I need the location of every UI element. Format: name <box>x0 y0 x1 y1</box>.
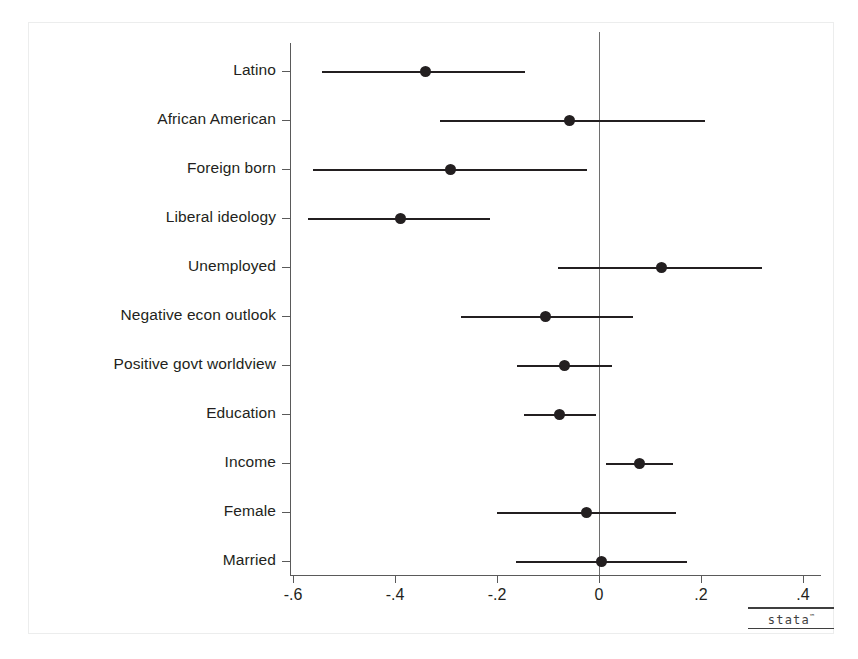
x-axis-tick-label: -.4 <box>386 586 405 604</box>
y-axis-label: Positive govt worldview <box>113 355 276 373</box>
y-axis-label: Liberal ideology <box>166 208 276 226</box>
y-axis-tick <box>282 267 290 268</box>
coefficient-plot-page: LatinoAfrican AmericanForeign bornLibera… <box>0 0 858 659</box>
y-axis-tick <box>282 169 290 170</box>
y-axis-tick <box>282 120 290 121</box>
x-axis-tick <box>803 575 804 583</box>
point-estimate-marker <box>656 262 667 273</box>
y-axis-tick <box>282 316 290 317</box>
x-axis-tick-label: -.2 <box>488 586 507 604</box>
x-axis-tick <box>395 575 396 583</box>
point-estimate-marker <box>554 409 565 420</box>
y-axis-label: Latino <box>233 61 276 79</box>
point-estimate-marker <box>445 164 456 175</box>
x-axis-tick <box>701 575 702 583</box>
zero-reference-line <box>599 32 600 576</box>
y-axis-tick <box>282 365 290 366</box>
y-axis-label: Income <box>225 453 276 471</box>
trademark-symbol: ™ <box>810 613 814 621</box>
stata-wordmark: stata™ <box>748 609 834 628</box>
x-axis-tick <box>599 575 600 583</box>
y-axis-label: Foreign born <box>187 159 276 177</box>
y-axis-tick <box>282 512 290 513</box>
y-axis-label: Education <box>206 404 276 422</box>
x-axis-tick-label: .2 <box>694 586 707 604</box>
y-axis-label: Married <box>223 551 276 569</box>
x-axis-tick <box>497 575 498 583</box>
x-axis-line <box>290 575 821 576</box>
y-axis-tick <box>282 463 290 464</box>
point-estimate-marker <box>420 66 431 77</box>
x-axis-tick-label: -.6 <box>284 586 303 604</box>
y-axis-line <box>290 43 291 576</box>
x-axis-tick-label: 0 <box>595 586 604 604</box>
stata-logo: stata™ <box>748 607 834 629</box>
point-estimate-marker <box>581 507 592 518</box>
x-axis-tick <box>293 575 294 583</box>
x-axis-tick-label: .4 <box>796 586 809 604</box>
y-axis-tick <box>282 561 290 562</box>
y-axis-label: Female <box>224 502 276 520</box>
y-axis-tick <box>282 218 290 219</box>
y-axis-labels: LatinoAfrican AmericanForeign bornLibera… <box>0 0 276 659</box>
point-estimate-marker <box>596 556 607 567</box>
stata-wordmark-text: stata <box>768 613 810 627</box>
y-axis-label: Unemployed <box>188 257 276 275</box>
point-estimate-marker <box>395 213 406 224</box>
y-axis-label: Negative econ outlook <box>121 306 276 324</box>
y-axis-tick <box>282 71 290 72</box>
y-axis-label: African American <box>157 110 276 128</box>
stata-logo-rule-bottom <box>748 628 834 630</box>
y-axis-tick <box>282 414 290 415</box>
